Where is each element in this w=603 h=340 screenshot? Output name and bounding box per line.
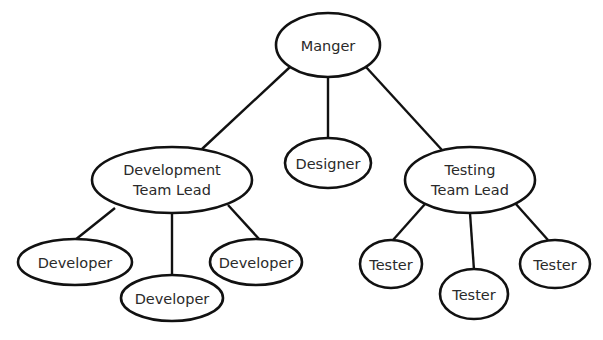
edge-manager-devlead: [202, 67, 290, 149]
org-chart-diagram: Manger Development Team Lead Designer Te…: [0, 0, 603, 340]
node-development-team-lead: Development Team Lead: [92, 147, 252, 213]
edge-testlead-tester-1: [393, 204, 425, 240]
edge-testlead-tester-3: [515, 203, 548, 240]
edge-testlead-tester-2: [470, 213, 474, 270]
node-test-lead-line2: Team Lead: [430, 182, 509, 198]
node-designer-label: Designer: [296, 156, 361, 172]
node-manager: Manger: [276, 13, 380, 77]
node-testing-team-lead: Testing Team Lead: [405, 147, 535, 213]
node-developer-2: Developer: [121, 275, 223, 321]
edge-devlead-developer-3: [228, 205, 260, 240]
edge-devlead-developer-1: [75, 208, 115, 240]
node-tester-1-label: Tester: [368, 257, 412, 273]
node-test-lead-line1: Testing: [444, 162, 496, 178]
node-manager-label: Manger: [301, 38, 356, 54]
node-tester-3-label: Tester: [532, 257, 576, 273]
node-designer: Designer: [285, 138, 371, 188]
edge-manager-testlead: [366, 67, 442, 150]
node-tester-3: Tester: [520, 240, 590, 288]
node-tester-2: Tester: [440, 269, 508, 319]
node-developer-1: Developer: [18, 239, 132, 285]
node-tester-2-label: Tester: [451, 287, 495, 303]
node-developer-1-label: Developer: [38, 255, 113, 271]
node-dev-lead-line2: Team Lead: [132, 182, 211, 198]
node-developer-2-label: Developer: [135, 291, 210, 307]
node-dev-lead-line1: Development: [123, 162, 221, 178]
node-developer-3-label: Developer: [219, 255, 294, 271]
node-tester-1: Tester: [360, 240, 422, 288]
node-developer-3: Developer: [210, 239, 302, 285]
